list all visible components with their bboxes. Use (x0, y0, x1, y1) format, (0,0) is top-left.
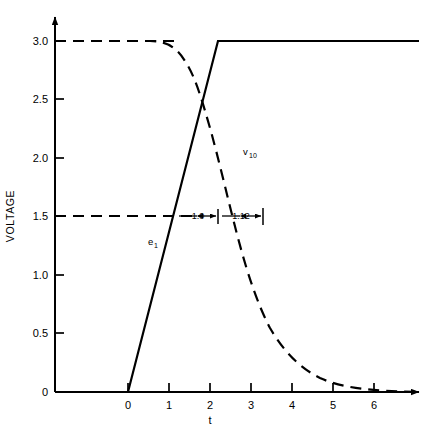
y-tick-label-3: 1.5 (33, 210, 48, 222)
y-tick-label-2: 1.0 (33, 269, 48, 281)
measure-1-label: 1.0 (192, 211, 205, 221)
x-tick-label-6: 6 (371, 399, 377, 411)
x-tick-label-2: 2 (207, 399, 213, 411)
y-axis (55, 17, 64, 392)
y-tick-label-1: 0.5 (33, 327, 48, 339)
measure-2-label: 1.12 (232, 211, 250, 221)
x-tick-label-0: 0 (125, 399, 131, 411)
y-tick-label-5: 2.5 (33, 93, 48, 105)
x-axis-title: t (208, 414, 211, 425)
voltage-vs-time-chart: 0 0.5 1.0 1.5 2.0 2.5 3.0 0 1 2 3 4 5 6 … (0, 0, 429, 425)
x-axis (55, 383, 419, 392)
series-e1-label: e 1 (148, 236, 158, 249)
series-v10-label-sub: 10 (249, 152, 257, 159)
series-v10-label-text: v (243, 146, 248, 157)
x-tick-label-1: 1 (166, 399, 172, 411)
x-tick-label-5: 5 (330, 399, 336, 411)
y-tick-label-0: 0 (42, 386, 48, 398)
y-tick-label-4: 2.0 (33, 152, 48, 164)
series-e1-label-sub: 1 (154, 242, 158, 249)
series-e1-label-text: e (148, 236, 153, 247)
y-tick-label-6: 3.0 (33, 35, 48, 47)
y-axis-title: VOLTAGE (4, 190, 16, 242)
series-v10-label: v 10 (243, 146, 257, 159)
chart-canvas: 0 0.5 1.0 1.5 2.0 2.5 3.0 0 1 2 3 4 5 6 … (0, 0, 429, 425)
x-tick-label-3: 3 (248, 399, 254, 411)
x-tick-label-4: 4 (289, 399, 295, 411)
